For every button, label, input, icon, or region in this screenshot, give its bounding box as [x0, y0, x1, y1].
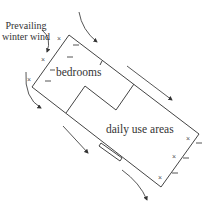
bedrooms-label: bedrooms	[56, 67, 101, 79]
x-mark: ×	[27, 76, 31, 83]
wind-arrow	[122, 170, 147, 200]
house-outline	[32, 35, 199, 187]
partition-wall	[66, 86, 85, 113]
partition-wall	[85, 86, 116, 110]
x-mark: ×	[186, 135, 190, 142]
x-mark: ×	[41, 56, 45, 63]
wind-label-line1: Prevailing	[2, 20, 50, 31]
daily-use-areas-label: daily use areas	[106, 124, 174, 136]
wind-arrow	[63, 126, 88, 153]
wind-label: Prevailing winter wind	[2, 20, 50, 42]
x-mark: ×	[172, 153, 176, 160]
wind-arrow	[79, 12, 97, 42]
wind-label-line2: winter wind	[2, 31, 50, 42]
x-mark: ×	[158, 174, 162, 181]
entry-door	[99, 143, 122, 161]
partition-tick	[100, 61, 102, 65]
partition-wall	[116, 84, 134, 110]
x-mark: ×	[57, 35, 61, 42]
wind-arrow	[127, 66, 172, 100]
